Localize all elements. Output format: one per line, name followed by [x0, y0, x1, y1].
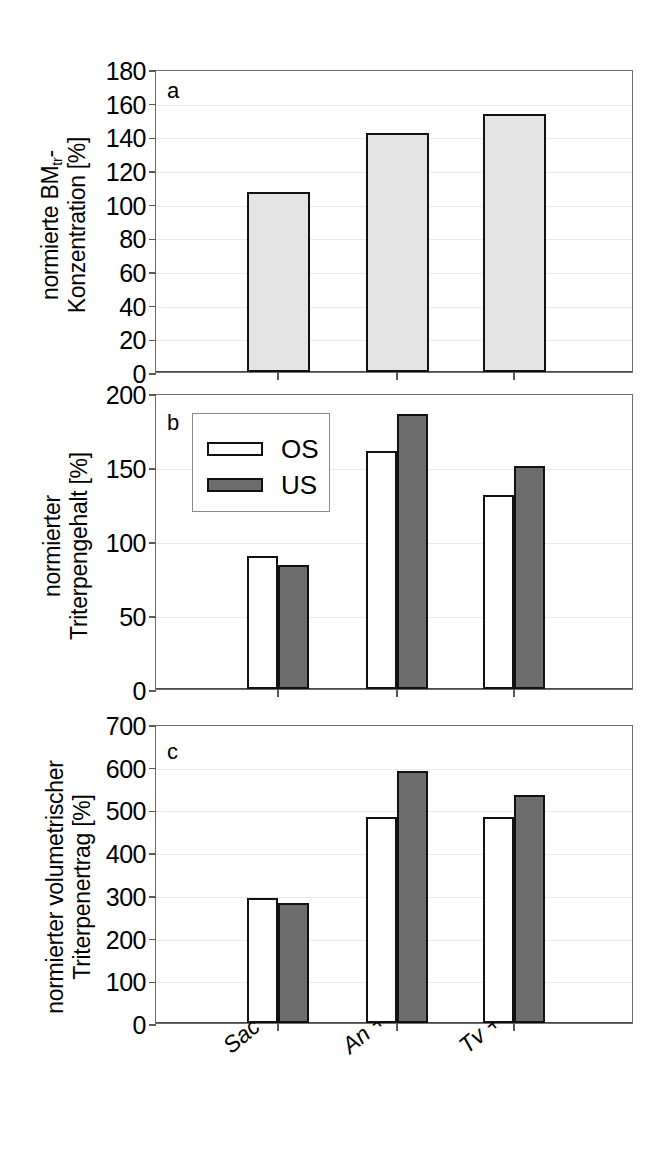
y-axis-tick: [149, 239, 156, 240]
legend-swatch-os: [207, 442, 263, 456]
panel-a: 020406080100120140160180 a: [155, 70, 633, 373]
y-axis-tick-label: 20: [119, 328, 146, 353]
panel-b-plot-area: 050100150200 OS US: [155, 394, 633, 690]
panel-c-y-title-line1: normierter volumetrischer: [42, 761, 68, 1014]
panel-a-plot-area: 020406080100120140160180: [155, 70, 633, 373]
y-axis-tick-label: 200: [106, 383, 146, 408]
x-axis-tick: [513, 1023, 514, 1031]
y-axis-tick-label: 180: [106, 59, 146, 84]
bar-us-2: [514, 795, 545, 1023]
panel-b-y-axis-title: normierter Triterpengehalt [%]: [39, 431, 93, 661]
y-axis-tick: [149, 104, 156, 105]
panel-c-y-title-line2: Triterpenertrag [%]: [69, 748, 96, 1026]
y-axis-tick: [149, 1024, 156, 1025]
panel-b-letter: b: [167, 412, 179, 434]
y-axis-tick-label: 100: [106, 193, 146, 218]
y-axis-tick: [149, 373, 156, 374]
panel-b: 050100150200 OS US b: [155, 394, 633, 690]
y-axis-tick: [149, 272, 156, 273]
y-axis-tick-label: 100: [106, 531, 146, 556]
bar-us-0: [278, 903, 309, 1023]
legend-swatch-us: [207, 478, 263, 492]
legend-row-us: US: [207, 472, 317, 498]
y-axis-tick: [149, 768, 156, 769]
y-axis-tick: [149, 939, 156, 940]
bar-us-2: [514, 466, 545, 689]
y-axis-tick: [149, 616, 156, 617]
y-axis-tick-label: 300: [106, 884, 146, 909]
y-axis-tick: [149, 542, 156, 543]
legend-row-os: OS: [207, 436, 319, 462]
y-axis-tick: [149, 468, 156, 469]
x-axis-tick: [277, 689, 278, 697]
x-axis-tick: [396, 689, 397, 697]
x-axis-tick: [513, 372, 514, 380]
x-axis-tick: [513, 689, 514, 697]
bar-os-0: [247, 556, 278, 689]
y-axis-tick: [149, 394, 156, 395]
y-axis-tick: [149, 70, 156, 71]
bar-os-1: [366, 451, 397, 689]
panel-a-y-title-part1: normierte BM: [37, 166, 63, 300]
y-axis-tick-label: 0: [133, 1013, 146, 1038]
x-axis-tick: [396, 1023, 397, 1031]
panel-c: 0100200300400500600700 c: [155, 725, 633, 1024]
y-axis-tick-label: 100: [106, 970, 146, 995]
bar-os-0: [247, 898, 278, 1023]
bar-bmtr-1: [366, 133, 429, 372]
gridline: [156, 105, 632, 106]
y-axis-tick: [149, 725, 156, 726]
y-axis-tick-label: 160: [106, 92, 146, 117]
x-axis-tick: [277, 1023, 278, 1031]
y-axis-tick: [149, 690, 156, 691]
y-axis-tick: [149, 340, 156, 341]
bar-bmtr-0: [247, 192, 310, 372]
y-axis-tick: [149, 138, 156, 139]
y-axis-tick: [149, 205, 156, 206]
y-axis-tick-label: 150: [106, 457, 146, 482]
y-axis-tick-label: 140: [106, 126, 146, 151]
panel-c-y-axis-title: normierter volumetrischer Triterpenertra…: [42, 748, 96, 1026]
bar-os-1: [366, 817, 397, 1023]
panel-a-y-title-line2: Konzentration [%]: [64, 100, 91, 350]
y-axis-tick-label: 500: [106, 799, 146, 824]
panel-b-y-title-line2: Triterpengehalt [%]: [66, 431, 93, 661]
figure-root: 020406080100120140160180 a normierte BMt…: [0, 0, 672, 1169]
x-axis-tick: [396, 372, 397, 380]
y-axis-tick: [149, 306, 156, 307]
legend-box: OS US: [192, 413, 330, 512]
gridline: [156, 769, 632, 770]
panel-a-letter: a: [167, 80, 179, 102]
y-axis-tick: [149, 982, 156, 983]
panel-a-y-axis-title: normierte BMtr- Konzentration [%]: [37, 100, 91, 350]
bar-os-2: [483, 495, 514, 689]
y-axis-tick-label: 600: [106, 756, 146, 781]
y-axis-tick-label: 400: [106, 842, 146, 867]
y-axis-tick-label: 80: [119, 227, 146, 252]
y-axis-tick: [149, 171, 156, 172]
legend-label-os: OS: [281, 436, 319, 462]
y-axis-tick-label: 50: [119, 605, 146, 630]
y-axis-tick: [149, 896, 156, 897]
panel-c-letter: c: [167, 741, 178, 763]
y-axis-tick-label: 60: [119, 261, 146, 286]
legend-label-us: US: [281, 472, 317, 498]
bar-os-2: [483, 817, 514, 1023]
x-axis-tick: [277, 372, 278, 380]
y-axis-tick-label: 700: [106, 714, 146, 739]
panel-c-plot-area: 0100200300400500600700: [155, 725, 633, 1024]
gridline: [156, 811, 632, 812]
y-axis-tick-label: 120: [106, 160, 146, 185]
bar-us-0: [278, 565, 309, 689]
bar-bmtr-2: [483, 114, 546, 372]
bar-us-1: [397, 414, 428, 689]
y-axis-tick-label: 40: [119, 294, 146, 319]
y-axis-tick-label: 200: [106, 927, 146, 952]
y-axis-tick-label: 0: [133, 679, 146, 704]
y-axis-tick: [149, 853, 156, 854]
y-axis-tick: [149, 811, 156, 812]
bar-us-1: [397, 771, 428, 1023]
panel-b-y-title-line1: normierter: [39, 495, 65, 597]
panel-a-y-title-subscript: tr: [49, 158, 65, 166]
